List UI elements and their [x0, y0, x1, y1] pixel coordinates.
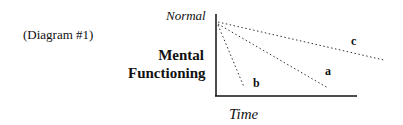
line-c-label: c	[351, 34, 356, 49]
line-a-label: a	[325, 64, 331, 79]
line-a	[218, 24, 328, 88]
diagram-plot	[0, 0, 403, 125]
line-b-label: b	[253, 76, 260, 91]
line-b	[218, 25, 244, 87]
line-c	[218, 22, 384, 60]
